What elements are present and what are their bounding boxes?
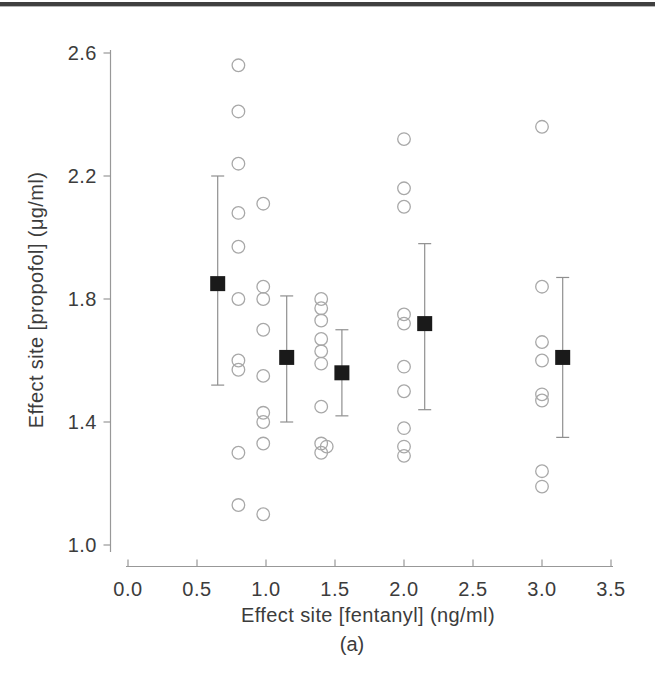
data-point-circle	[536, 336, 549, 349]
data-point-circle	[398, 385, 411, 398]
data-point-circle	[232, 240, 245, 253]
y-tick-label: 1.8	[68, 288, 97, 310]
data-point-circle	[257, 293, 270, 306]
data-point-circle	[315, 302, 328, 315]
data-point-circle	[536, 354, 549, 367]
data-point-circle	[232, 59, 245, 72]
data-point-circle	[232, 105, 245, 118]
data-point-circle	[398, 422, 411, 435]
data-point-circle	[257, 508, 270, 521]
x-tick-label: 2.0	[389, 578, 418, 600]
y-tick-label: 2.2	[68, 165, 97, 187]
x-tick-label: 0.5	[182, 578, 211, 600]
data-point-circle	[315, 400, 328, 413]
x-tick-label: 2.5	[458, 578, 487, 600]
y-tick-label: 2.6	[68, 42, 97, 64]
x-axis-title: Effect site [fentanyl] (ng/ml)	[241, 604, 495, 627]
x-tick-label: 0.0	[113, 578, 142, 600]
figure-page: 1.01.41.82.22.60.00.51.01.52.02.53.03.5 …	[0, 0, 655, 696]
data-point-circle	[257, 416, 270, 429]
mean-square-marker	[334, 365, 349, 380]
data-point-circle	[257, 370, 270, 383]
data-point-circle	[315, 314, 328, 327]
data-point-circle	[536, 280, 549, 293]
data-point-circle	[232, 207, 245, 220]
x-tick-label: 1.0	[251, 578, 280, 600]
data-point-circle	[398, 133, 411, 146]
mean-square-marker	[555, 350, 570, 365]
data-point-circle	[398, 450, 411, 463]
subfigure-caption: (a)	[340, 633, 364, 656]
data-point-circle	[232, 499, 245, 512]
data-point-circle	[232, 363, 245, 376]
data-point-circle	[398, 182, 411, 195]
data-point-circle	[257, 280, 270, 293]
x-tick-label: 1.5	[320, 578, 349, 600]
data-point-circle	[536, 121, 549, 134]
mean-square-marker	[279, 350, 294, 365]
data-point-circle	[257, 437, 270, 450]
data-point-circle	[398, 200, 411, 213]
data-point-circle	[315, 333, 328, 346]
y-tick-label: 1.0	[68, 534, 97, 556]
data-point-circle	[232, 446, 245, 459]
data-point-circle	[232, 293, 245, 306]
data-point-circle	[232, 157, 245, 170]
y-axis-title: Effect site [propofol] (μg/ml)	[25, 172, 48, 429]
data-point-circle	[536, 480, 549, 493]
scatter-plot-canvas: 1.01.41.82.22.60.00.51.01.52.02.53.03.5	[0, 0, 655, 696]
data-point-circle	[257, 323, 270, 336]
data-point-circle	[315, 345, 328, 358]
data-point-circle	[257, 197, 270, 210]
data-point-circle	[398, 360, 411, 373]
mean-square-marker	[210, 276, 225, 291]
x-tick-label: 3.5	[596, 578, 625, 600]
data-point-circle	[315, 357, 328, 370]
x-tick-label: 3.0	[527, 578, 556, 600]
y-tick-label: 1.4	[68, 411, 97, 433]
data-point-circle	[536, 465, 549, 478]
mean-square-marker	[417, 316, 432, 331]
data-point-circle	[398, 317, 411, 330]
